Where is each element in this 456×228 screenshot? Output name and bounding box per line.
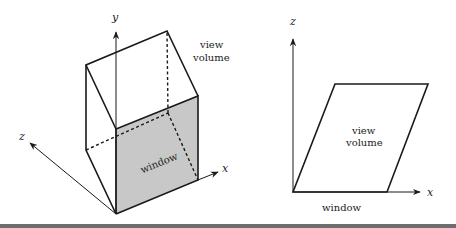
view-volume-label-line2: volume — [345, 137, 383, 148]
figure-canvas: y x z view volume window z x view volume… — [0, 0, 456, 228]
z-axis — [30, 143, 116, 214]
right-side-view: z x view volume window — [289, 15, 434, 213]
window-label: window — [322, 202, 362, 213]
x-axis — [198, 172, 218, 180]
left-oblique-view: y x z view volume window — [18, 11, 230, 214]
view-volume-label-line2: volume — [192, 52, 230, 63]
view-volume-label-line1: view — [351, 125, 376, 136]
bottom-rule — [0, 224, 456, 228]
z-axis-label: z — [18, 130, 25, 143]
z-axis-label: z — [289, 15, 296, 28]
x-axis-label: x — [222, 162, 229, 175]
view-volume-label-line1: view — [199, 39, 224, 50]
x-axis-label: x — [427, 186, 434, 199]
y-axis-label: y — [111, 11, 119, 24]
